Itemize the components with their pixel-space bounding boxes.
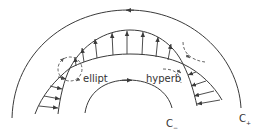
band-boundaries xyxy=(35,30,222,114)
label-c-minus: C − xyxy=(166,118,178,131)
label-hyperb: hyperb xyxy=(146,73,181,84)
inner-contour-c-minus xyxy=(85,80,172,113)
svg-text:C: C xyxy=(239,113,246,124)
svg-text:−: − xyxy=(173,124,178,131)
label-ellipt: ellipt xyxy=(83,73,108,84)
svg-text:C: C xyxy=(166,118,173,129)
outer-contour-c-plus xyxy=(12,10,241,118)
label-c-plus: C + xyxy=(239,113,251,126)
contour-diagram: ellipt hyperb C − C + xyxy=(0,0,260,134)
svg-text:+: + xyxy=(246,119,251,126)
